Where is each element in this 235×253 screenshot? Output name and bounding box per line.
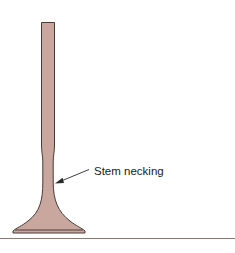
leader-line — [60, 170, 89, 182]
stem-necking-label: Stem necking — [94, 165, 164, 177]
valve-shape — [13, 23, 85, 234]
arrowhead-icon — [55, 178, 64, 184]
valve-diagram: Stem necking — [0, 0, 235, 253]
